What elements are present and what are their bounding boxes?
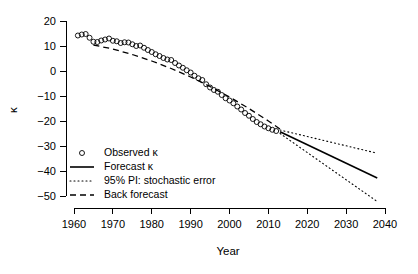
y-axis-tick-labels: 20100−10−20−30−40−50 (37, 15, 56, 202)
legend-marker-open-circle (80, 151, 85, 156)
x-tick-label: 2030 (334, 218, 358, 230)
x-axis-title: Year (216, 245, 239, 257)
series-forecast (280, 132, 377, 178)
y-tick-label: −10 (37, 90, 56, 102)
forecast-line (280, 132, 377, 178)
legend-item-label: Back forecast (104, 188, 168, 200)
y-axis-title: κ (7, 107, 19, 113)
kappa-forecast-chart: 20100−10−20−30−40−50 κ 19601970198019902… (0, 0, 418, 274)
y-tick-label: −40 (37, 165, 56, 177)
series-pi-lower (280, 134, 377, 202)
y-tick-label: −50 (37, 190, 56, 202)
y-tick-label: 0 (50, 65, 56, 77)
y-tick-label: −20 (37, 115, 56, 127)
legend-item-label: Observed κ (104, 146, 158, 158)
y-tick-label: 20 (44, 15, 56, 27)
series-pi-upper (280, 130, 377, 153)
x-tick-label: 1990 (178, 218, 202, 230)
x-tick-label: 1960 (62, 218, 86, 230)
chart-container: 20100−10−20−30−40−50 κ 19601970198019902… (0, 0, 418, 274)
legend-item-label: 95% PI: stochastic error (104, 174, 216, 186)
y-tick-label: 10 (44, 40, 56, 52)
x-tick-label: 2000 (217, 218, 241, 230)
y-axis: 20100−10−20−30−40−50 κ (7, 15, 66, 202)
observed-point (87, 35, 92, 40)
x-tick-label: 2020 (295, 218, 319, 230)
legend-item-label: Forecast κ (104, 160, 154, 172)
x-axis: 196019701980199020002010202020302040 Yea… (62, 208, 397, 257)
x-tick-label: 2040 (373, 218, 397, 230)
x-tick-label: 1970 (101, 218, 125, 230)
pi-lower-line (280, 134, 377, 202)
series-observed-points (75, 32, 278, 134)
x-axis-tick-labels: 196019701980199020002010202020302040 (62, 218, 397, 230)
pi-upper-line (280, 130, 377, 153)
x-tick-label: 2010 (256, 218, 280, 230)
chart-legend: Observed κForecast κ95% PI: stochastic e… (70, 146, 216, 200)
x-tick-label: 1980 (140, 218, 164, 230)
x-axis-ticks (74, 208, 385, 214)
y-axis-ticks (60, 21, 66, 196)
y-tick-label: −30 (37, 140, 56, 152)
